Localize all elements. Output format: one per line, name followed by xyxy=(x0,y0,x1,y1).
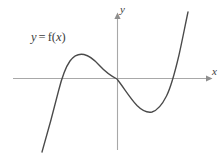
function-annotation: y=f(x) xyxy=(31,31,66,44)
x-axis-label: x xyxy=(212,66,217,77)
function-annotation-y: y xyxy=(31,30,37,44)
graph-canvas xyxy=(0,0,224,155)
function-annotation-close-paren: ) xyxy=(62,30,66,44)
function-annotation-equals: = xyxy=(39,30,46,44)
y-axis-label: y xyxy=(120,4,125,15)
graph-figure: y x y=f(x) xyxy=(0,0,224,155)
